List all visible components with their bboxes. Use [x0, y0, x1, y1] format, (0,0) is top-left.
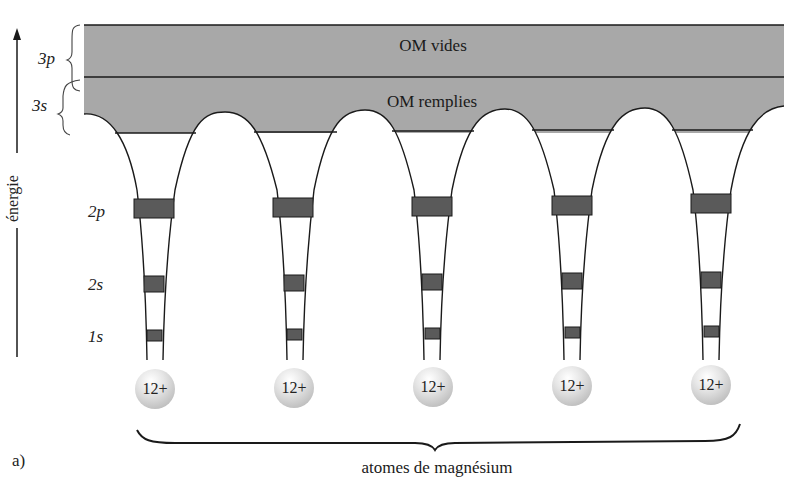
brace-label: atomes de magnésium: [361, 458, 512, 478]
brace-3s: [58, 80, 80, 135]
nucleus: 12+: [135, 369, 175, 409]
level-2s: [284, 275, 304, 291]
level-2p: [273, 198, 313, 217]
nucleus: 12+: [274, 368, 314, 408]
arrow-up-icon: [13, 28, 21, 40]
label-3s: 3s: [32, 97, 47, 114]
level-1s: [287, 329, 302, 340]
level-2p: [412, 197, 452, 216]
level-1s: [565, 327, 580, 338]
energy-diagram: [0, 0, 785, 487]
nucleus: 12+: [413, 367, 453, 407]
level-2p: [691, 194, 731, 213]
band-label-empty: OM vides: [399, 36, 467, 56]
level-2p: [552, 196, 592, 215]
panel-label: a): [12, 452, 25, 469]
nucleus-charge: 12+: [698, 376, 723, 394]
nucleus: 12+: [691, 365, 731, 405]
label-2p: 2p: [88, 203, 105, 220]
level-1s: [704, 326, 719, 337]
level-2s: [422, 274, 442, 290]
label-2s: 2s: [88, 276, 103, 293]
level-1s: [147, 330, 162, 341]
energy-axis-label: énergie: [4, 175, 22, 222]
nucleus: 12+: [552, 366, 592, 406]
label-1s: 1s: [88, 328, 103, 345]
level-2s: [701, 272, 721, 288]
nucleus-charge: 12+: [559, 377, 584, 395]
nucleus-charge: 12+: [420, 378, 445, 396]
nucleus-charge: 12+: [281, 379, 306, 397]
label-3p: 3p: [38, 50, 55, 67]
left-braces: [58, 25, 80, 135]
level-2p: [134, 199, 174, 218]
band-label-filled: OM remplies: [387, 92, 477, 112]
nucleus-charge: 12+: [142, 380, 167, 398]
level-1s: [425, 328, 440, 339]
level-2s: [144, 276, 164, 292]
level-2s: [562, 273, 582, 289]
